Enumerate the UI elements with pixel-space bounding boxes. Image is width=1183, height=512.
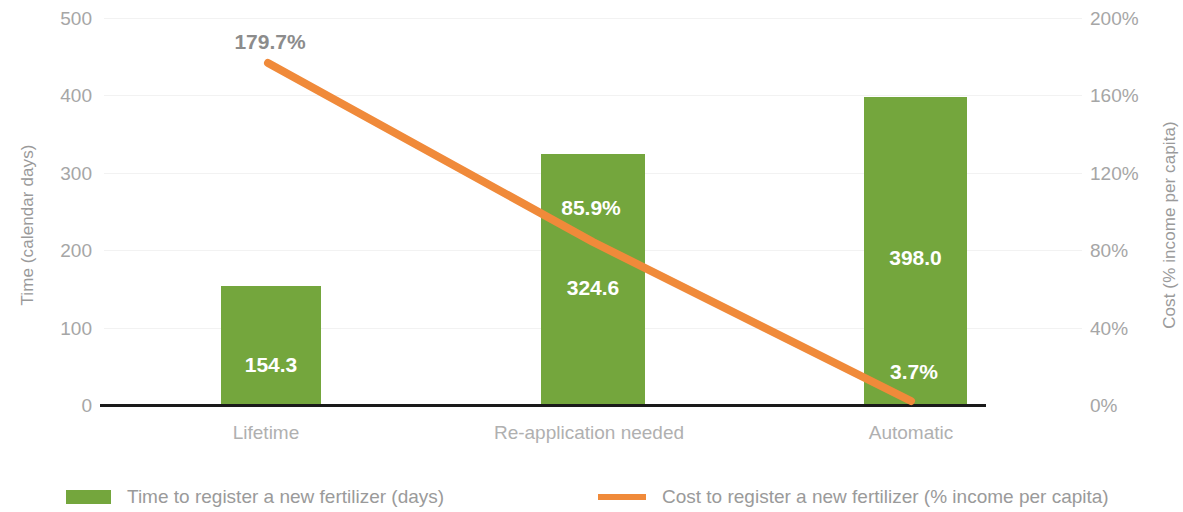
y-axis-left-tick-400: 400 [60, 86, 92, 105]
legend-item-time[interactable]: Time to register a new fertilizer (days) [66, 482, 444, 512]
bar-value-lifetime: 154.3 [221, 353, 321, 377]
x-axis-label-automatic: Automatic [796, 422, 1026, 444]
y-axis-right-tick-120pct: 120% [1090, 164, 1139, 183]
line-value-re-application-needed: 85.9% [516, 196, 666, 220]
y-axis-right-tick-40pct: 40% [1090, 319, 1128, 338]
line-value-automatic: 3.7% [839, 360, 989, 384]
legend-label-time: Time to register a new fertilizer (days) [127, 486, 444, 508]
chart-container: Time (calendar days) Cost (% income per … [0, 0, 1183, 512]
y-axis-left-tick-500: 500 [60, 9, 92, 28]
legend-item-cost[interactable]: Cost to register a new fertilizer (% inc… [598, 482, 1109, 512]
bar-value-automatic: 398.0 [864, 246, 967, 270]
y-axis-right-title: Cost (% income per capita) [1160, 75, 1180, 375]
legend-label-cost: Cost to register a new fertilizer (% inc… [662, 486, 1109, 508]
bar-value-re-application-needed: 324.6 [541, 276, 645, 300]
gridline-400 [104, 95, 1082, 96]
x-axis-label-lifetime: Lifetime [151, 422, 381, 444]
y-axis-left-tick-300: 300 [60, 164, 92, 183]
y-axis-left-tick-0: 0 [81, 396, 92, 415]
y-axis-right-tick-200pct: 200% [1090, 9, 1139, 28]
bar-lifetime[interactable] [221, 286, 321, 405]
y-axis-left-tick-100: 100 [60, 319, 92, 338]
gridline-500 [104, 18, 1082, 19]
line-value-lifetime: 179.7% [195, 30, 345, 54]
y-axis-right-tick-0pct: 0% [1090, 396, 1117, 415]
legend-line-swatch-icon [598, 494, 646, 500]
legend-bar-swatch-icon [66, 490, 111, 504]
y-axis-right-tick-160pct: 160% [1090, 86, 1139, 105]
x-axis-baseline [100, 404, 986, 407]
x-axis-label-re-application-needed: Re-application needed [474, 422, 704, 444]
y-axis-left-title: Time (calendar days) [18, 75, 38, 375]
y-axis-right-tick-80pct: 80% [1090, 241, 1128, 260]
y-axis-left-tick-200: 200 [60, 241, 92, 260]
chart-legend: Time to register a new fertilizer (days)… [0, 482, 1183, 512]
